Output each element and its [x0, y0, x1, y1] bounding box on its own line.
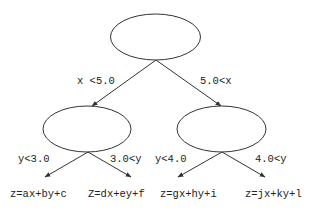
edge-label-y-gt-3: 3.0<y: [110, 153, 142, 165]
edge-label-y-lt-4: y<4.0: [155, 153, 187, 165]
edge-label-y-lt-3: y<3.0: [18, 153, 50, 165]
leaf-equation-4: z=jx+ky+l: [245, 188, 302, 200]
left-child-node: [43, 106, 131, 152]
edge-label-x-lt-5: x <5.0: [77, 75, 115, 87]
leaf-equation-2: Z=dx+ey+f: [88, 188, 145, 200]
decision-tree-diagram: x <5.0 5.0<x y<3.0 3.0<y y<4.0 4.0<y z=a…: [0, 0, 317, 212]
right-child-node: [177, 106, 266, 152]
edge-left-left: [45, 152, 88, 177]
root-node: [111, 14, 201, 60]
edge-label-x-gt-5: 5.0<x: [200, 75, 232, 87]
edge-label-y-gt-4: 4.0<y: [255, 153, 287, 165]
leaf-equation-1: z=ax+by+c: [10, 188, 67, 200]
leaf-equation-3: z=gx+hy+i: [160, 188, 217, 200]
